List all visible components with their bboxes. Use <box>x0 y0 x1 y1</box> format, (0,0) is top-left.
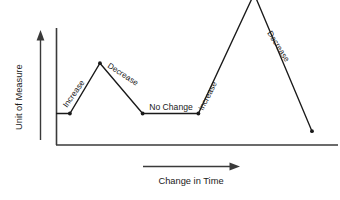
data-point <box>310 129 314 133</box>
y-axis-title: Unit of Measure <box>14 64 24 130</box>
segment-label-increase-2: Increase <box>197 80 219 112</box>
data-point <box>196 112 200 116</box>
data-point <box>98 61 102 65</box>
data-point <box>68 112 72 116</box>
segment-label-no-change: No Change <box>149 102 193 112</box>
trend-diagram-svg: Unit of Measure Change in Time Increase … <box>0 0 340 200</box>
y-axis-direction-arrow <box>37 30 45 140</box>
segment-label-decrease-2: Decrease <box>265 29 291 64</box>
data-point <box>141 112 145 116</box>
x-axis-direction-arrow <box>143 163 240 171</box>
x-axis-title: Change in Time <box>158 176 223 186</box>
segment-label-increase-1: Increase <box>61 78 86 109</box>
chart-figure: Unit of Measure Change in Time Increase … <box>0 0 340 200</box>
segment-label-decrease-1: Decrease <box>106 61 140 88</box>
